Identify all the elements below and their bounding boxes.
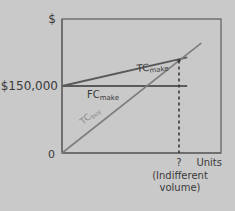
- y-axis-label: $: [48, 12, 56, 26]
- indifferent-volume-caption-line1: (Indifferent: [152, 170, 208, 181]
- y-tick-label-150000: $150,000: [1, 79, 58, 93]
- x-tick-label-indifferent: ?: [176, 157, 181, 168]
- indifference-chart: $ $150,000 0 ? Units (Indifferent volume…: [0, 0, 235, 211]
- origin-label: 0: [48, 148, 55, 161]
- fc-make-label-main: FC: [87, 89, 100, 100]
- indifference-point: [177, 59, 180, 62]
- indifferent-volume-caption-line2: volume): [160, 182, 201, 193]
- x-axis-label: Units: [196, 157, 222, 168]
- fc-make-label-sub: make: [100, 94, 119, 102]
- tc-make-label-main: TC: [135, 62, 150, 74]
